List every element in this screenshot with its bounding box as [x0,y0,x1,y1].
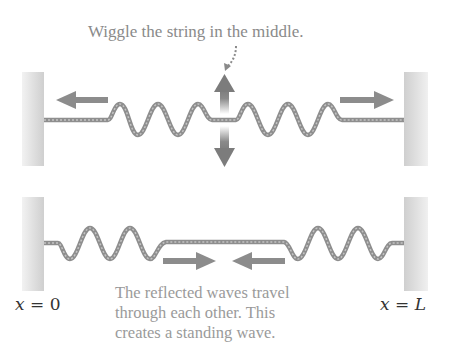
right-boundary-variable: x [380,294,390,314]
bottom-string [44,228,404,259]
right-boundary-value: = L [390,294,426,314]
left-boundary-value: = 0 [25,294,61,314]
left-pointing-arrow-icon [232,252,285,270]
left-travel-arrow-icon [56,91,108,109]
bottom-caption-line-1: The reflected waves travel [115,283,355,303]
right-boundary-label: x = L [380,294,426,314]
top-caption: Wiggle the string in the middle. [88,22,304,42]
top-panel [22,46,428,167]
left-wall [22,72,44,166]
right-wall-bottom [404,197,428,291]
bottom-caption-line-2: through each other. This [115,303,355,323]
right-pointing-arrow-icon [163,252,216,270]
bottom-caption: The reflected waves travel through each … [115,283,355,343]
dotted-pointer-icon [224,46,236,71]
left-boundary-variable: x [15,294,25,314]
bottom-caption-line-3: creates a standing wave. [115,323,355,343]
left-wall-bottom [22,197,44,291]
right-travel-arrow-icon [340,91,394,109]
bottom-panel [22,197,428,291]
right-boundary-length: L [415,294,426,314]
left-boundary-label: x = 0 [15,294,60,314]
right-wall [404,72,428,166]
